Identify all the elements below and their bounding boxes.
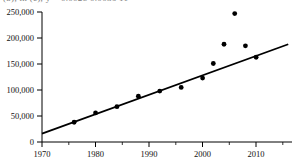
data-point [136,94,141,99]
data-point [254,55,259,60]
chart-figure: (b), in (c), y = 0.0028 0.0036 11 0 50,0… [0,0,296,165]
x-tick-label-1990: 1990 [141,149,158,159]
y-tick-label-150000: 150,000 [6,59,34,69]
data-point [157,89,162,94]
y-axis-group: 0 50,000 100,000 150,000 200,000 250,000 [6,7,42,147]
y-tick-label-50000: 50,000 [11,111,34,121]
data-series-layer [42,11,288,134]
data-point [179,85,184,90]
y-tick-label-0: 0 [30,137,34,147]
trend-line [42,44,288,133]
data-point [72,120,77,125]
x-tick-label-1970: 1970 [34,149,51,159]
x-axis-group: 1970 1980 1990 2000 2010 [34,142,293,159]
x-tick-label-2000: 2000 [194,149,211,159]
data-point [222,42,227,47]
y-tick-label-100000: 100,000 [6,85,34,95]
y-tick-label-200000: 200,000 [6,33,34,43]
x-tick-label-2010: 2010 [248,149,265,159]
data-point [93,110,98,115]
data-point [211,61,216,66]
data-point [200,76,205,81]
y-tick-label-250000: 250,000 [6,7,34,17]
data-point [115,104,120,109]
data-point [232,11,237,16]
scatter-plot-svg: 0 50,000 100,000 150,000 200,000 250,000… [0,0,296,165]
x-tick-label-1980: 1980 [87,149,104,159]
data-point [243,43,248,48]
